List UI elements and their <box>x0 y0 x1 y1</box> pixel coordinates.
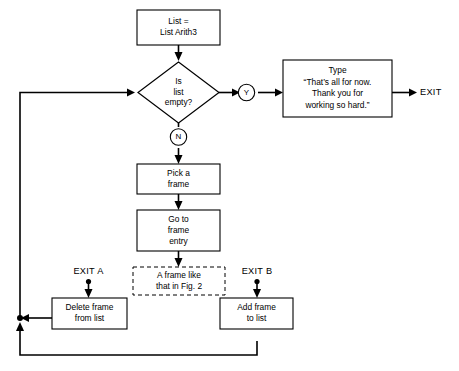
flowchart-diagram: List = List Arith3 Is list empty? Y N Ty… <box>0 0 459 371</box>
node-decision-is-list-empty: Is list empty? <box>138 62 219 123</box>
arrowhead-no-to-pick-frame <box>175 155 183 164</box>
node-type-box: Type “That’s all for now. Thank you for … <box>283 60 392 117</box>
pick-frame-line-2: frame <box>168 179 190 189</box>
decision-line-1: Is <box>175 76 182 86</box>
frame-fig2-line-2: that in Fig. 2 <box>156 281 202 291</box>
frame-fig2-line-1: A frame like <box>157 270 201 280</box>
decision-line-2: list <box>173 87 184 97</box>
exit-a-label: EXIT A <box>73 266 104 276</box>
arrowhead-yes-to-type-box <box>275 89 283 97</box>
node-branch-yes: Y <box>238 84 254 100</box>
dot-left-bus-junction <box>17 315 23 321</box>
branch-yes-label: Y <box>244 88 250 97</box>
node-add-frame-to-list: Add frame to list <box>220 298 293 329</box>
arrowhead-start-to-decision <box>175 52 183 61</box>
connector-left-feedback-bus <box>20 93 130 319</box>
frame-entry-line-2: frame <box>168 225 190 235</box>
exit-b-label: EXIT B <box>242 266 273 276</box>
type-box-line-4: working so hard.” <box>304 100 369 110</box>
delete-frame-line-1: Delete frame <box>66 302 114 312</box>
node-pick-a-frame: Pick a frame <box>137 164 220 194</box>
frame-entry-line-3: entry <box>169 236 188 246</box>
pick-frame-line-1: Pick a <box>167 168 190 178</box>
arrowhead-pick-frame-to-frame-entry <box>175 201 183 210</box>
start-box-line-1: List = <box>168 16 188 26</box>
arrowhead-frame-entry-to-frame-fig2 <box>175 258 183 267</box>
type-box-line-2: “That’s all for now. <box>304 77 372 87</box>
node-go-to-frame-entry: Go to frame entry <box>137 210 220 251</box>
exit-terminal-label: EXIT <box>420 87 442 97</box>
type-box-line-1: Type <box>328 65 346 75</box>
add-frame-line-1: Add frame <box>237 302 276 312</box>
frame-entry-line-1: Go to <box>168 214 189 224</box>
decision-line-3: empty? <box>165 97 193 107</box>
branch-no-label: N <box>176 132 182 141</box>
node-start-box: List = List Arith3 <box>137 10 220 45</box>
start-box-line-2: List Arith3 <box>160 27 197 37</box>
arrowhead-exit-a-to-delete-frame <box>85 289 93 298</box>
node-delete-frame-from-list: Delete frame from list <box>52 298 127 329</box>
type-box-line-3: Thank you for <box>312 88 363 98</box>
add-frame-line-2: to list <box>247 313 267 323</box>
node-frame-like-fig2: A frame like that in Fig. 2 <box>133 267 225 295</box>
connector-add-frame-bottom-loop <box>20 330 257 355</box>
arrowhead-exit-b-to-add-frame <box>253 289 261 298</box>
arrowhead-left-bus-to-decision <box>127 89 135 97</box>
arrowhead-type-box-to-exit <box>409 89 417 97</box>
arrowhead-bottom-loop-to-left-bus <box>16 322 24 331</box>
delete-frame-line-2: from list <box>75 313 105 323</box>
node-branch-no: N <box>170 129 186 145</box>
